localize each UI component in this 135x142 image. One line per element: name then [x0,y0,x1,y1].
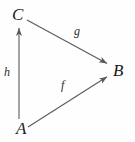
node-label-A: A [16,120,26,137]
edge-label-g: g [74,25,80,37]
commutative-diagram: C A B h g f [0,0,135,142]
edge-g-arrow [27,20,107,63]
node-label-C: C [12,6,23,23]
node-label-B: B [113,62,123,79]
edge-f-arrow [28,77,107,127]
edge-label-f: f [61,79,64,91]
edge-label-h: h [4,66,10,78]
